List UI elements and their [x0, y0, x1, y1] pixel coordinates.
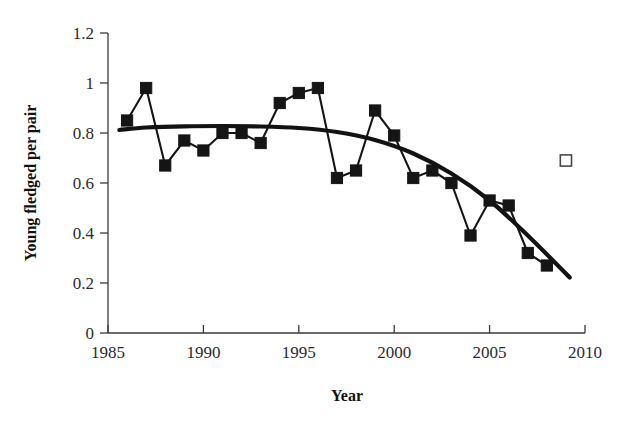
data-point-marker — [217, 127, 228, 138]
data-point-marker — [121, 115, 132, 126]
data-point-marker — [255, 137, 266, 148]
y-tick-label: 0.2 — [73, 274, 94, 293]
data-point-marker — [541, 260, 552, 271]
y-tick-label: 0.6 — [73, 174, 94, 193]
data-point-marker — [293, 87, 304, 98]
data-point-marker — [350, 165, 361, 176]
x-tick-label: 2010 — [568, 343, 602, 362]
open-square-marker — [560, 155, 571, 166]
data-point-marker — [312, 82, 323, 93]
x-tick-labels: 198519901995200020052010 — [91, 343, 602, 362]
y-tick-label: 0.4 — [73, 224, 95, 243]
data-point-marker — [465, 230, 476, 241]
x-tick-label: 2005 — [473, 343, 507, 362]
y-axis-title: Young fledged per pair — [22, 105, 40, 262]
data-point-marker — [274, 97, 285, 108]
data-markers-filled — [121, 82, 552, 271]
y-tick-labels: 00.20.40.60.811.2 — [73, 24, 95, 343]
x-axis: 198519901995200020052010 — [91, 325, 602, 362]
x-tick-label: 2000 — [377, 343, 411, 362]
data-point-marker — [160, 160, 171, 171]
y-tick-label: 0 — [86, 324, 95, 343]
trend-curve — [119, 126, 569, 278]
data-point-marker — [370, 105, 381, 116]
data-point-marker — [408, 172, 419, 183]
data-point-marker — [141, 82, 152, 93]
x-tick-label: 1995 — [282, 343, 316, 362]
data-series-layer — [119, 82, 571, 277]
data-point-marker — [331, 172, 342, 183]
chart-svg: 00.20.40.60.811.2 1985199019952000200520… — [0, 0, 630, 423]
x-tick-marks — [108, 325, 585, 333]
x-tick-label: 1990 — [186, 343, 220, 362]
data-point-marker — [446, 177, 457, 188]
data-markers-open — [560, 155, 571, 166]
y-axis: 00.20.40.60.811.2 — [73, 24, 108, 343]
data-point-marker — [484, 195, 495, 206]
data-point-marker — [522, 247, 533, 258]
data-point-marker — [198, 145, 209, 156]
data-point-marker — [179, 135, 190, 146]
data-point-marker — [503, 200, 514, 211]
y-tick-label: 0.8 — [73, 124, 94, 143]
y-tick-label: 1.2 — [73, 24, 94, 43]
data-point-marker — [427, 165, 438, 176]
y-tick-marks — [100, 33, 108, 333]
chart-figure: 00.20.40.60.811.2 1985199019952000200520… — [0, 0, 630, 423]
x-tick-label: 1985 — [91, 343, 125, 362]
y-tick-label: 1 — [86, 74, 95, 93]
data-point-marker — [236, 127, 247, 138]
data-point-marker — [389, 130, 400, 141]
x-axis-title: Year — [331, 387, 363, 404]
